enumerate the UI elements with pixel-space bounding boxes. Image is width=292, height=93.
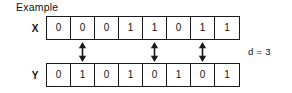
bit-cell: 0 — [191, 64, 215, 86]
hamming-distance-label: d = 3 — [248, 46, 271, 57]
row-label-y: Y — [28, 70, 42, 82]
bit-cell: 1 — [215, 64, 239, 86]
double-headed-vertical-arrow-icon — [197, 42, 208, 62]
bit-cell: 0 — [95, 17, 119, 39]
bit-cell: 0 — [71, 17, 95, 39]
hamming-distance-figure: Example X 0 0 0 1 1 0 1 1 Y 0 1 0 1 0 1 … — [0, 0, 292, 93]
bit-cell: 0 — [47, 17, 71, 39]
bit-cell: 0 — [143, 64, 167, 86]
bit-cell: 1 — [167, 64, 191, 86]
double-headed-vertical-arrow-icon — [77, 42, 88, 62]
bit-cell: 0 — [47, 64, 71, 86]
bit-cell: 1 — [119, 17, 143, 39]
bit-strip-y: 0 1 0 1 0 1 0 1 — [46, 63, 240, 87]
row-label-x: X — [28, 23, 42, 35]
figure-caption: Example — [16, 1, 58, 13]
bit-cell: 1 — [215, 17, 239, 39]
bit-cell: 1 — [71, 64, 95, 86]
bit-cell: 1 — [191, 17, 215, 39]
bit-cell: 1 — [119, 64, 143, 86]
bit-strip-x: 0 0 0 1 1 0 1 1 — [46, 16, 240, 40]
bit-cell: 0 — [167, 17, 191, 39]
bit-cell: 1 — [143, 17, 167, 39]
bit-cell: 0 — [95, 64, 119, 86]
double-headed-vertical-arrow-icon — [149, 42, 160, 62]
